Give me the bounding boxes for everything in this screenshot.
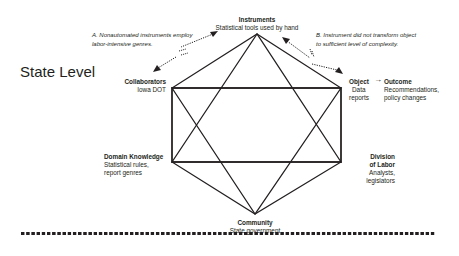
note-b: B. Instrument did not transform object t… bbox=[316, 31, 416, 48]
node-division-of-labor: Division of Labor Analysts, legislators bbox=[340, 153, 395, 185]
triangle-down-pointing bbox=[172, 34, 341, 162]
node-collaborators: Collaborators Iowa DOT bbox=[110, 78, 166, 94]
node-object: Object Data reports bbox=[349, 78, 369, 102]
node-domain-knowledge: Domain Knowledge Statistical rules, repo… bbox=[104, 153, 163, 177]
triangle-up-pointing bbox=[172, 88, 341, 214]
node-outcome: Outcome Recommendations, policy changes bbox=[384, 78, 439, 102]
arrow-right-icon: → bbox=[374, 76, 382, 84]
dotted-separator bbox=[21, 232, 436, 235]
arrowhead-icon bbox=[335, 67, 343, 74]
level-title: State Level bbox=[20, 63, 95, 80]
arrowhead-icon bbox=[153, 65, 161, 72]
node-instruments: Instruments Statistical tools used by ha… bbox=[214, 16, 300, 32]
note-a: A. Nonautomated instruments employ labor… bbox=[92, 31, 192, 48]
